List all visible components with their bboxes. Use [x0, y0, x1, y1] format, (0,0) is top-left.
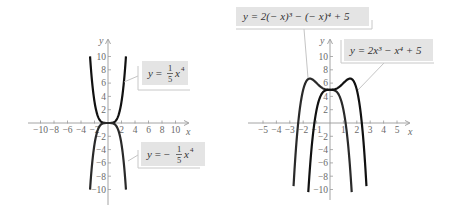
y-tick-label: 10	[97, 52, 107, 62]
left-graph: −10−8−6−4−2246810108642−2−4−6−8−10 y x y…	[28, 35, 205, 205]
svg-text:y =: y =	[147, 67, 162, 79]
svg-text:1: 1	[168, 63, 172, 73]
y-tick-label: −2	[318, 132, 328, 142]
x-tick-label: 2	[354, 125, 359, 135]
x-tick-label: 10	[171, 125, 181, 135]
label-neg-x4: y = − 1 5 x 4	[128, 142, 205, 168]
svg-text:4: 4	[190, 146, 194, 154]
y-tick-label: 8	[101, 65, 106, 75]
y-tick-label: −10	[91, 185, 106, 195]
equation-text: y = 2(− x)³ − (− x)⁴ + 5	[242, 10, 350, 23]
connector-line	[124, 76, 138, 82]
x-tick-label: 3	[368, 125, 373, 135]
y-axis-label: y	[98, 35, 104, 46]
connector-line	[358, 63, 384, 90]
svg-text:x: x	[183, 148, 189, 160]
y-tick-label: 6	[323, 78, 328, 88]
x-tick-label: 5	[395, 125, 400, 135]
x-tick-label: −4	[271, 125, 281, 135]
connector-line	[304, 29, 308, 78]
y-tick-label: −8	[318, 172, 328, 182]
x-tick-label: 8	[160, 125, 165, 135]
x-tick-label: −3	[285, 125, 295, 135]
svg-text:y = −: y = −	[146, 148, 170, 160]
y-tick-label: 4	[323, 92, 328, 102]
equation-text: y = 2x³ − x⁴ + 5	[349, 44, 422, 56]
x-tick-label: 6	[146, 125, 151, 135]
svg-text:5: 5	[177, 155, 181, 165]
svg-text:1: 1	[177, 144, 181, 154]
y-tick-label: −6	[96, 158, 106, 168]
x-axis-label: x	[185, 126, 191, 137]
label-pos-x4: y = 1 5 x 4	[124, 61, 190, 90]
y-tick-label: 2	[101, 105, 106, 115]
y-tick-label: 6	[101, 78, 106, 88]
x-tick-label: −6	[62, 125, 72, 135]
y-tick-label: 8	[323, 65, 328, 75]
svg-text:4: 4	[181, 65, 185, 73]
y-tick-label: −6	[318, 158, 328, 168]
x-tick-label: −8	[49, 125, 59, 135]
y-tick-label: −10	[313, 185, 328, 195]
right-graph: −5−4−3−2−112345108642−2−4−6−8−10 y x y =…	[236, 7, 434, 200]
x-tick-label: −5	[258, 125, 268, 135]
x-axis-label: x	[407, 126, 413, 137]
y-tick-label: 2	[323, 105, 328, 115]
connector-line	[128, 155, 138, 161]
y-tick-label: 10	[319, 52, 329, 62]
svg-text:x: x	[174, 67, 180, 79]
y-axis-label: y	[319, 35, 325, 46]
y-tick-label: −4	[96, 145, 106, 155]
x-tick-label: −10	[33, 125, 48, 135]
x-tick-label: −4	[76, 125, 86, 135]
x-tick-label: 4	[133, 125, 138, 135]
y-tick-label: −4	[318, 145, 328, 155]
x-tick-label: −2	[298, 125, 308, 135]
y-tick-label: −8	[96, 172, 106, 182]
y-tick-label: 4	[101, 92, 106, 102]
svg-text:5: 5	[168, 74, 172, 84]
x-tick-label: 4	[381, 125, 386, 135]
figure: −10−8−6−4−2246810108642−2−4−6−8−10 y x y…	[0, 0, 457, 214]
